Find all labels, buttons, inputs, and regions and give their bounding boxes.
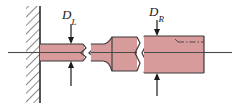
diagram-canvas: [0, 0, 239, 109]
left-diameter-subscript: L: [71, 17, 76, 27]
DR-top-arrowhead: [154, 29, 160, 36]
fixed-support-wall: [26, 6, 40, 103]
engineering-diagram-figure: DL DR: [0, 0, 239, 109]
middle-shaft-body: [91, 37, 137, 71]
right-diameter-label: DR: [149, 5, 164, 22]
right-diameter-subscript: R: [158, 14, 164, 24]
right-diameter-symbol: D: [149, 4, 158, 19]
right-shaft-segment: [144, 36, 204, 73]
left-shaft-segment: [40, 44, 84, 61]
DR-bottom-arrowhead: [154, 73, 160, 80]
left-diameter-symbol: D: [62, 7, 71, 22]
fillet-transition: [91, 37, 137, 71]
left-diameter-label: DL: [62, 8, 76, 25]
DL-top-arrowhead: [68, 37, 74, 44]
wall-hatching: [26, 6, 40, 103]
DL-bottom-arrowhead: [68, 61, 74, 68]
